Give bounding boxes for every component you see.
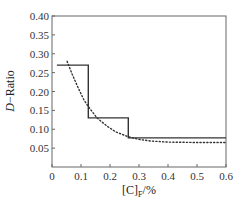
x-axis-title-main: [C] — [122, 183, 138, 197]
plot-frame — [52, 16, 226, 167]
plot-series — [57, 61, 226, 142]
series-fit — [67, 61, 226, 142]
y-tick-label: 0.05 — [30, 142, 50, 154]
y-tick-label: 0.35 — [30, 29, 50, 41]
y-tick-label: 0.10 — [30, 123, 50, 135]
x-axis-title: [C]F/% — [122, 183, 156, 199]
x-tick-label: 0.6 — [219, 170, 233, 182]
x-tick-label: 0.2 — [103, 170, 117, 182]
x-tick-label: 0.5 — [190, 170, 204, 182]
x-tick-label: 0 — [49, 170, 55, 182]
plot-border — [52, 16, 226, 167]
y-tick-label: 0.15 — [30, 104, 50, 116]
y-axis-title-rest: −Ratio — [3, 70, 17, 103]
x-tick-label: 0.4 — [161, 170, 175, 182]
y-tick-label: 0.25 — [30, 67, 50, 79]
x-axis-title-suffix: /% — [143, 183, 156, 197]
y-tick-label: 0.30 — [30, 48, 50, 60]
y-axis-title: D−Ratio — [3, 70, 17, 112]
x-tick-label: 0.3 — [132, 170, 146, 182]
y-axis: 0.050.100.150.200.250.300.350.40 — [30, 10, 55, 154]
x-tick-label: 0.1 — [74, 170, 88, 182]
y-tick-label: 0.20 — [30, 86, 50, 98]
y-tick-label: 0.40 — [30, 10, 50, 22]
series-step — [57, 65, 226, 138]
chart: 0.050.100.150.200.250.300.350.40 00.10.2… — [0, 0, 243, 204]
y-axis-title-italic: D — [3, 103, 17, 113]
